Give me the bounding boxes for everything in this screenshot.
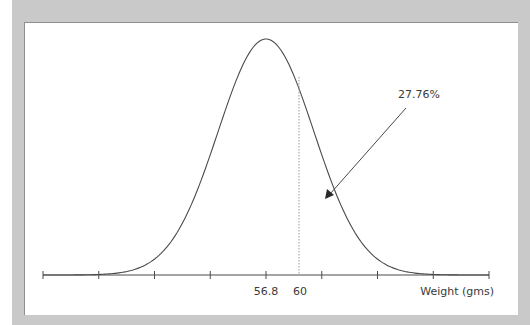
annotation-arrow [330, 108, 406, 194]
normal-distribution-chart: 56.8 60 Weight (gms) 27.76% [0, 0, 530, 325]
annotation-label: 27.76% [398, 88, 440, 101]
x-axis-label: Weight (gms) [420, 285, 494, 298]
tick-label-mean: 56.8 [254, 285, 279, 298]
bell-curve [43, 39, 489, 275]
tick-label-marker: 60 [293, 285, 307, 298]
